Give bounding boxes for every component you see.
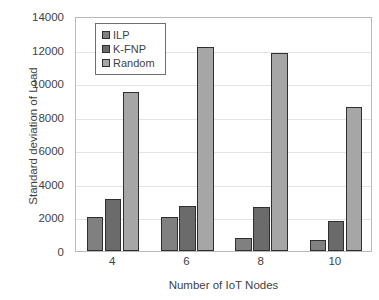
x-axis-tick-label: 8 (257, 255, 263, 267)
y-axis-tick-labels: 02000400060008000100001200014000 (0, 17, 70, 252)
legend-swatch-icon (102, 31, 110, 39)
bar-ilp-4 (87, 217, 104, 251)
bar-k-fnp-10 (328, 221, 345, 251)
y-axis-tick-label: 14000 (32, 11, 64, 23)
x-axis-title: Number of IoT Nodes (75, 279, 372, 291)
y-axis-tick-label: 10000 (32, 78, 64, 90)
bar-random-10 (346, 107, 363, 251)
legend-label: K-FNP (113, 43, 146, 55)
legend-label: ILP (113, 29, 130, 41)
legend-label: Random (113, 57, 155, 69)
bar-chart-figure: Standard deviation of Load 0200040006000… (0, 0, 379, 300)
bar-ilp-6 (161, 217, 178, 251)
legend-item-ilp[interactable]: ILP (102, 28, 155, 42)
y-axis-tick-label: 12000 (32, 45, 64, 57)
bar-k-fnp-4 (105, 199, 122, 251)
y-axis-tick-label: 2000 (38, 212, 64, 224)
bar-random-4 (123, 92, 140, 251)
bar-random-6 (197, 47, 214, 251)
bar-random-8 (271, 53, 288, 251)
legend-swatch-icon (102, 59, 110, 67)
legend-item-k-fnp[interactable]: K-FNP (102, 42, 155, 56)
bar-k-fnp-8 (253, 207, 270, 251)
bar-k-fnp-6 (179, 206, 196, 251)
y-axis-tick-label: 0 (58, 246, 64, 258)
cropped-caption-remnant (6, 0, 246, 7)
plot-area: ILPK-FNPRandom (75, 17, 372, 252)
y-axis-tick-label: 8000 (38, 112, 64, 124)
bar-ilp-10 (310, 240, 327, 251)
x-axis-tick-label: 10 (328, 255, 341, 267)
y-axis-tick-label: 6000 (38, 145, 64, 157)
legend-swatch-icon (102, 45, 110, 53)
y-axis-tick-label: 4000 (38, 179, 64, 191)
bar-ilp-8 (235, 238, 252, 251)
legend: ILPK-FNPRandom (95, 23, 166, 75)
x-axis-tick-label: 6 (183, 255, 189, 267)
x-axis-tick-label: 4 (109, 255, 115, 267)
legend-item-random[interactable]: Random (102, 56, 155, 70)
x-axis-tick-labels: 46810 (75, 255, 372, 273)
